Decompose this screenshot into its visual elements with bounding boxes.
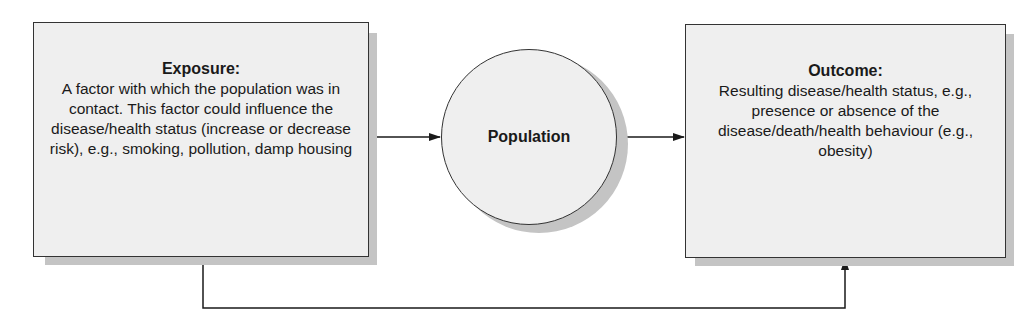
exposure-title: Exposure: [34, 59, 368, 79]
outcome-description: Resulting disease/health status, e.g., p… [686, 81, 1005, 161]
exposure-description: A factor with which the population was i… [34, 79, 368, 159]
outcome-box: Outcome: Resulting disease/health status… [685, 24, 1006, 258]
population-label: Population [488, 128, 571, 146]
exposure-box: Exposure: A factor with which the popula… [33, 22, 369, 257]
population-circle: Population [441, 49, 617, 225]
outcome-title: Outcome: [686, 61, 1005, 81]
